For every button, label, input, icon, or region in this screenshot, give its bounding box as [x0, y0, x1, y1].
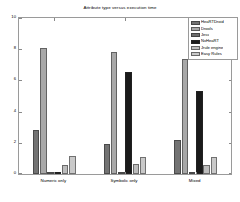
bar	[47, 172, 53, 174]
legend-item-label: Drools	[201, 27, 213, 32]
y-tick-mark	[19, 173, 22, 174]
y-tick-mark	[19, 80, 22, 81]
bar	[33, 130, 39, 174]
y-tick-label: 6	[0, 77, 16, 81]
bar	[55, 172, 61, 174]
x-tick-mark	[125, 18, 126, 21]
bar	[211, 157, 217, 174]
x-tick-mark	[125, 172, 126, 175]
x-tick-label: Numeric only	[41, 178, 67, 184]
legend-swatch-icon	[191, 46, 200, 50]
y-tick-mark	[229, 173, 232, 174]
bar	[69, 156, 75, 174]
bar	[62, 165, 68, 174]
bar	[203, 165, 209, 174]
bar	[40, 48, 46, 174]
bar	[133, 164, 139, 174]
y-tick-mark	[19, 143, 22, 144]
x-tick-mark	[54, 172, 55, 175]
legend-item-label: NxHeaRT	[201, 39, 219, 44]
y-tick-mark	[229, 143, 232, 144]
y-axis-tick-labels: 0246810	[0, 17, 16, 175]
bar	[111, 52, 117, 174]
y-tick-mark	[229, 80, 232, 81]
legend-swatch-icon	[191, 27, 200, 31]
y-tick-mark	[19, 18, 22, 19]
bar	[140, 157, 146, 174]
legend-item-label: Easy Rules	[201, 52, 222, 57]
y-tick-label: 0	[0, 171, 16, 175]
legend-item-label: Jess	[201, 33, 209, 38]
y-tick-mark	[19, 49, 22, 50]
chart-figure: Attribute type versus execution time 024…	[0, 0, 240, 202]
legend-item-label: HeaRTDroid	[201, 20, 224, 25]
bar	[125, 72, 131, 174]
y-tick-mark	[229, 112, 232, 113]
bar	[196, 91, 202, 174]
bar	[182, 59, 188, 174]
chart-title: Attribute type versus execution time	[0, 5, 240, 11]
legend-swatch-icon	[191, 40, 200, 44]
x-tick-mark	[54, 18, 55, 21]
x-tick-label: Mixed	[189, 178, 201, 184]
bar	[118, 172, 124, 174]
legend-swatch-icon	[191, 52, 200, 56]
x-axis-tick-labels: Numeric onlySymbolic onlyMixed	[18, 178, 232, 188]
y-tick-mark	[19, 112, 22, 113]
bar	[189, 172, 195, 174]
y-tick-label: 10	[0, 15, 16, 19]
legend-item[interactable]: Easy Rules	[191, 51, 236, 57]
legend-swatch-icon	[191, 21, 200, 25]
y-tick-label: 2	[0, 140, 16, 144]
legend-swatch-icon	[191, 33, 200, 37]
x-tick-label: Symbolic only	[110, 178, 137, 184]
legend-item-label: Jrule engine	[201, 46, 223, 51]
y-tick-label: 4	[0, 109, 16, 113]
y-tick-label: 8	[0, 46, 16, 50]
bar	[104, 144, 110, 174]
chart-legend: HeaRTDroidDroolsJessNxHeaRTJrule engineE…	[188, 17, 238, 60]
bar	[174, 140, 180, 174]
x-tick-mark	[196, 172, 197, 175]
